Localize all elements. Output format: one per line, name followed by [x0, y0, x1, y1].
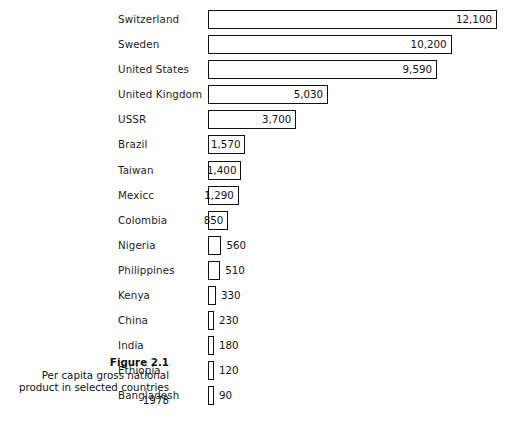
- bar-wrapper: 3,700: [208, 110, 296, 129]
- bar-wrapper: 10,200: [208, 35, 452, 54]
- figure-2-1-bar-chart: Switzerland12,100Sweden10,200United Stat…: [0, 0, 514, 428]
- bar-value-label: 1,290: [204, 186, 233, 205]
- bar-wrapper: 120: [208, 361, 214, 380]
- bar-row: Kenya330: [0, 283, 514, 308]
- bar-value-label: 1,400: [207, 161, 236, 180]
- bar-wrapper: 510: [208, 261, 220, 280]
- bar-wrapper: 180: [208, 336, 214, 355]
- bar-wrapper: 90: [208, 386, 214, 405]
- bar-value-label: 3,700: [262, 110, 291, 129]
- bar-row: Brazil1,570: [0, 132, 514, 157]
- bar-wrapper: 1,570: [208, 135, 245, 154]
- bar-wrapper: 9,590: [208, 60, 437, 79]
- bar-category-label: Colombia: [0, 208, 200, 233]
- bar-row: USSR3,700: [0, 107, 514, 132]
- bar-row: United Kingdom5,030: [0, 82, 514, 107]
- bar-category-label: Kenya: [0, 283, 200, 308]
- bar-category-label: Brazil: [0, 132, 200, 157]
- bar: [208, 236, 221, 255]
- bar: [208, 361, 214, 380]
- bar-wrapper: 330: [208, 286, 216, 305]
- bar-rows-container: Switzerland12,100Sweden10,200United Stat…: [0, 7, 514, 409]
- bar-row: Taiwan1,400: [0, 158, 514, 183]
- bar-category-label: Taiwan: [0, 158, 200, 183]
- bar-value-label: 90: [219, 386, 232, 405]
- bar-category-label: Mexicc: [0, 183, 200, 208]
- bar-value-label: 120: [219, 361, 239, 380]
- bar-category-label: Sweden: [0, 32, 200, 57]
- bar-category-label: Nigeria: [0, 233, 200, 258]
- bar: [208, 286, 216, 305]
- bar-row: Nigeria560: [0, 233, 514, 258]
- bar-category-label: United Kingdom: [0, 82, 200, 107]
- bar-wrapper: 12,100: [208, 10, 497, 29]
- figure-caption-title: Figure 2.1: [2, 356, 169, 369]
- bar-wrapper: 850: [208, 211, 228, 230]
- bar-value-label: 850: [204, 211, 224, 230]
- figure-caption: Figure 2.1 Per capita gross national pro…: [2, 356, 169, 406]
- bar-value-label: 180: [219, 336, 239, 355]
- bar-value-label: 1,570: [211, 135, 240, 154]
- bar-category-label: Philippines: [0, 258, 200, 283]
- bar: [208, 336, 214, 355]
- bar-row: Mexicc1,290: [0, 183, 514, 208]
- bar-row: Sweden10,200: [0, 32, 514, 57]
- bar-value-label: 510: [225, 261, 245, 280]
- bar: [208, 10, 497, 29]
- bar-value-label: 560: [226, 236, 246, 255]
- bar-row: Switzerland12,100: [0, 7, 514, 32]
- bar-row: India180: [0, 333, 514, 358]
- bar-wrapper: 1,290: [208, 186, 239, 205]
- bar-value-label: 12,100: [456, 10, 492, 29]
- bar-row: Colombia850: [0, 208, 514, 233]
- bar-wrapper: 560: [208, 236, 221, 255]
- bar-wrapper: 5,030: [208, 85, 328, 104]
- bar-value-label: 330: [221, 286, 241, 305]
- bar-value-label: 9,590: [403, 60, 432, 79]
- bar-category-label: China: [0, 308, 200, 333]
- bar: [208, 261, 220, 280]
- bar-value-label: 5,030: [294, 85, 323, 104]
- bar-row: United States9,590: [0, 57, 514, 82]
- bar-category-label: United States: [0, 57, 200, 82]
- figure-caption-body: Per capita gross national product in sel…: [2, 369, 169, 407]
- bar-row: Philippines510: [0, 258, 514, 283]
- bar-value-label: 10,200: [411, 35, 447, 54]
- bar-wrapper: 230: [208, 311, 214, 330]
- bar: [208, 386, 214, 405]
- bar-category-label: USSR: [0, 107, 200, 132]
- bar-wrapper: 1,400: [208, 161, 241, 180]
- bar-category-label: Switzerland: [0, 7, 200, 32]
- bar-value-label: 230: [219, 311, 239, 330]
- bar-category-label: India: [0, 333, 200, 358]
- bar: [208, 311, 214, 330]
- bar-row: China230: [0, 308, 514, 333]
